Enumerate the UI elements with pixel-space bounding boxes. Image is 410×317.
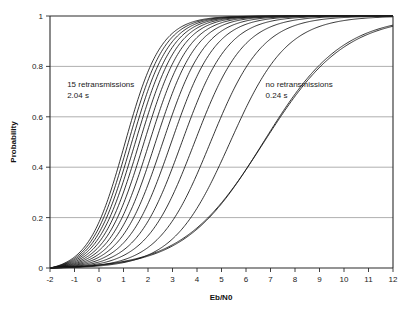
x-tick-label: 10	[340, 275, 349, 284]
x-tick-label: 5	[219, 275, 224, 284]
x-tick-label: 1	[121, 275, 126, 284]
y-tick-label: 0.8	[32, 62, 44, 71]
x-tick-label: 0	[97, 275, 102, 284]
y-tick-label: 0.2	[32, 214, 44, 223]
x-tick-label: 4	[195, 275, 200, 284]
right-annotation-line1: no retransmissions	[266, 80, 333, 89]
x-tick-label: 6	[244, 275, 249, 284]
y-tick-label: 0.4	[32, 163, 44, 172]
chart-canvas: -2-10123456789101112 00.20.40.60.81 Eb/N…	[0, 0, 410, 317]
x-tick-label: 12	[389, 275, 398, 284]
left-annotation-line2: 2.04 s	[67, 91, 89, 100]
x-tick-label: -1	[71, 275, 79, 284]
x-tick-label: 11	[364, 275, 373, 284]
x-tick-label: 9	[317, 275, 322, 284]
y-tick-label: 0	[39, 264, 44, 273]
y-tick-label: 1	[39, 12, 44, 21]
x-tick-label: -2	[46, 275, 54, 284]
left-annotation-line1: 15 retransmissions	[67, 80, 134, 89]
x-tick-label: 2	[146, 275, 151, 284]
x-tick-label: 7	[268, 275, 273, 284]
figure-background	[0, 0, 410, 317]
y-axis-title: Probability	[9, 121, 18, 163]
x-axis-title: Eb/N0	[210, 293, 233, 302]
x-tick-label: 8	[293, 275, 298, 284]
chart-figure: -2-10123456789101112 00.20.40.60.81 Eb/N…	[0, 0, 410, 317]
y-tick-label: 0.6	[32, 113, 44, 122]
right-annotation-line2: 0.24 s	[266, 91, 288, 100]
x-tick-label: 3	[170, 275, 175, 284]
